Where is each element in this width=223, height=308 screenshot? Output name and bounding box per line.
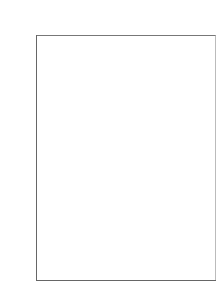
y-axis (36, 35, 37, 281)
plot-area (36, 35, 216, 280)
x-axis (36, 280, 216, 281)
